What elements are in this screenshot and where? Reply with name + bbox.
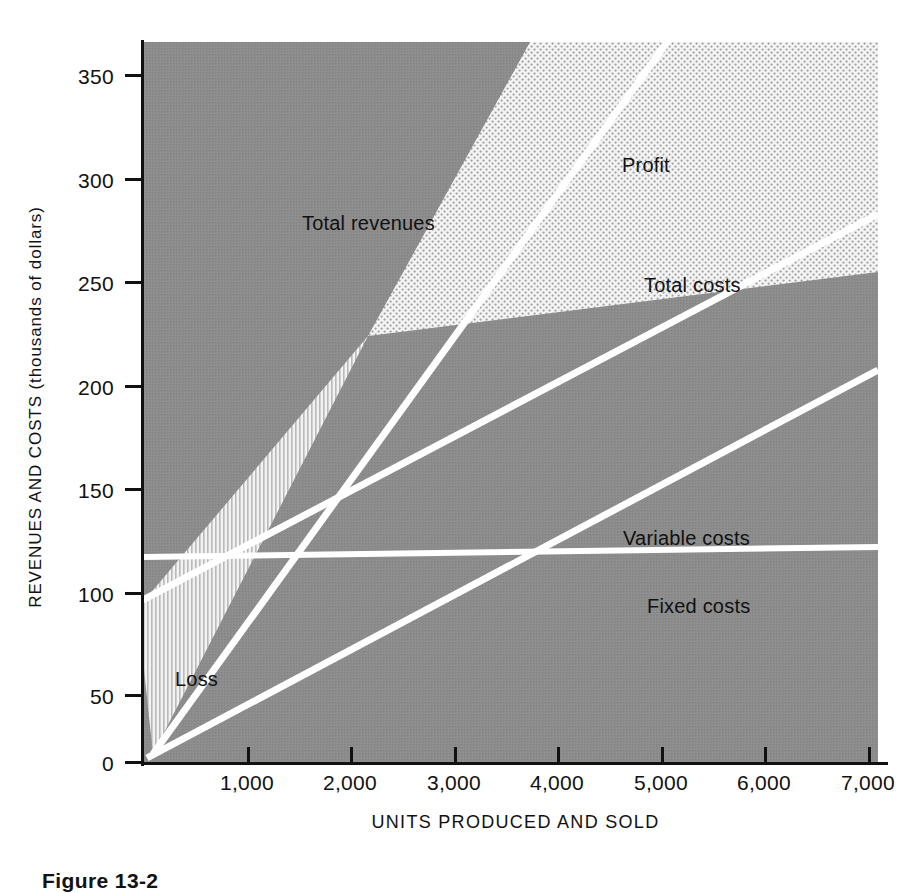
y-tick-250 — [125, 281, 142, 284]
profit-label: Profit — [622, 154, 670, 177]
y-tick-label-0: 0 — [52, 753, 114, 774]
x-tick-label-2000: 2,000 — [290, 772, 410, 793]
y-tick-label-300: 300 — [52, 170, 114, 191]
y-tick-50 — [125, 694, 142, 697]
x-tick-label-4000: 4,000 — [497, 772, 617, 793]
plot-area: Profit Loss Total revenues Total costs V… — [143, 42, 878, 762]
x-tick-4000 — [557, 747, 560, 764]
x-tick-5000 — [661, 747, 664, 764]
x-tick-7000 — [868, 747, 871, 764]
y-tick-200 — [125, 385, 142, 388]
y-tick-label-250: 250 — [52, 273, 114, 294]
loss-label: Loss — [175, 668, 218, 691]
y-tick-label-350: 350 — [52, 66, 114, 87]
y-tick-label-50: 50 — [52, 686, 114, 707]
x-tick-label-3000: 3,000 — [394, 772, 514, 793]
x-axis-title: UNITS PRODUCED AND SOLD — [143, 812, 888, 833]
y-axis-title: REVENUES AND COSTS (thousands of dollars… — [26, 127, 46, 687]
y-tick-100 — [125, 592, 142, 595]
x-tick-2000 — [350, 747, 353, 764]
x-axis-line — [143, 762, 888, 765]
figure-caption: Figure 13-2 — [42, 869, 158, 893]
y-tick-label-100: 100 — [52, 584, 114, 605]
y-axis-line — [141, 40, 144, 766]
y-tick-150 — [125, 488, 142, 491]
x-tick-label-7000: 7,000 — [808, 772, 903, 793]
variable-costs-label: Variable costs — [623, 527, 750, 550]
x-tick-label-5000: 5,000 — [601, 772, 721, 793]
y-tick-label-200: 200 — [52, 377, 114, 398]
total-costs-label: Total costs — [644, 274, 741, 297]
chart-svg — [143, 42, 878, 762]
y-tick-350 — [125, 74, 142, 77]
total-revenues-label: Total revenues — [302, 212, 435, 235]
y-tick-0 — [125, 761, 142, 764]
y-tick-label-150: 150 — [52, 480, 114, 501]
x-tick-3000 — [454, 747, 457, 764]
fixed-costs-label: Fixed costs — [647, 595, 750, 618]
x-tick-label-1000: 1,000 — [187, 772, 307, 793]
y-tick-300 — [125, 178, 142, 181]
x-tick-1000 — [247, 747, 250, 764]
x-tick-6000 — [764, 747, 767, 764]
x-tick-label-6000: 6,000 — [704, 772, 824, 793]
